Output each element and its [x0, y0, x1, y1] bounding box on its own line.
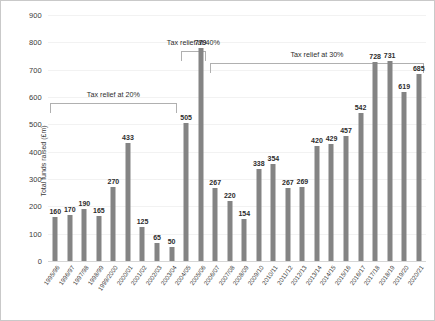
y-axis-tick-label: 100 [29, 229, 42, 238]
bar-group: 7282017/18 [368, 15, 383, 261]
bar-value-label: 125 [137, 218, 149, 225]
bar[interactable] [416, 74, 421, 261]
bar[interactable] [314, 146, 319, 261]
bar[interactable] [329, 144, 334, 261]
bar-value-label: 170 [64, 206, 76, 213]
bar-group: 502003/04 [164, 15, 179, 261]
bar[interactable] [140, 227, 145, 261]
bar-value-label: 50 [168, 238, 176, 245]
y-axis-tick-label: 500 [29, 120, 42, 129]
y-axis-tick-label: 200 [29, 202, 42, 211]
bar-value-label: 354 [267, 155, 279, 162]
bar-value-label: 420 [311, 137, 323, 144]
bar-value-label: 338 [253, 160, 265, 167]
bar[interactable] [300, 187, 305, 261]
bar[interactable] [169, 247, 174, 261]
bar-value-label: 685 [413, 65, 425, 72]
bar-group: 2672011/12 [281, 15, 296, 261]
bar-group: 6852020/21 [411, 15, 426, 261]
bar[interactable] [96, 216, 101, 261]
bar-value-label: 457 [340, 127, 352, 134]
bar-group: 652002/03 [150, 15, 165, 261]
bar-group: 2701999/2000 [106, 15, 121, 261]
bar-value-label: 154 [238, 210, 250, 217]
bar-value-label: 542 [355, 104, 367, 111]
bar[interactable] [358, 113, 363, 261]
bar-group: 3382009/10 [252, 15, 267, 261]
bar-series: 1601995/961701996/971901997/981651998/99… [48, 15, 426, 261]
bar-value-label: 65 [153, 234, 161, 241]
bar[interactable] [373, 62, 378, 261]
bar-group: 7312018/19 [382, 15, 397, 261]
bar-value-label: 505 [180, 114, 192, 121]
bar-value-label: 270 [108, 178, 120, 185]
y-axis-tick-label: 800 [29, 38, 42, 47]
bar-group: 7792005/06 [193, 15, 208, 261]
bar-group: 1542008/09 [237, 15, 252, 261]
bar-group: 2202007/08 [222, 15, 237, 261]
bar-group: 1601995/96 [48, 15, 63, 261]
y-axis-title: Total funds raised (£m) [40, 125, 47, 196]
bar[interactable] [256, 169, 261, 261]
bar[interactable] [125, 143, 130, 261]
bar-value-label: 429 [326, 135, 338, 142]
bar[interactable] [53, 217, 58, 261]
bar[interactable] [285, 188, 290, 261]
bar-group: 1901997/98 [77, 15, 92, 261]
bar-group: 5422016/17 [353, 15, 368, 261]
bar[interactable] [271, 164, 276, 261]
bar[interactable] [344, 136, 349, 261]
bar[interactable] [227, 201, 232, 261]
bar[interactable] [184, 123, 189, 261]
bar-value-label: 779 [195, 39, 207, 46]
bar[interactable] [111, 187, 116, 261]
y-axis-tick-label: 300 [29, 175, 42, 184]
bar-group: 4572015/16 [339, 15, 354, 261]
bar-value-label: 165 [93, 207, 105, 214]
bar-group: 2672006/07 [208, 15, 223, 261]
bar-value-label: 269 [297, 178, 309, 185]
y-axis-tick-label: 700 [29, 65, 42, 74]
y-axis-tick-label: 600 [29, 93, 42, 102]
bar-value-label: 267 [282, 179, 294, 186]
y-axis-tick-label: 900 [29, 11, 42, 20]
bar-group: 1252001/02 [135, 15, 150, 261]
gridline [48, 261, 426, 262]
bar-group: 1701996/97 [63, 15, 78, 261]
bar-group: 1651998/99 [92, 15, 107, 261]
bar-value-label: 433 [122, 134, 134, 141]
bar[interactable] [155, 243, 160, 261]
bar-value-label: 160 [49, 208, 61, 215]
bar-value-label: 267 [209, 179, 221, 186]
bar[interactable] [242, 219, 247, 261]
plot-area: Tax relief at 20%Tax relief at 40%Tax re… [48, 15, 426, 261]
bar-group: 4332000/01 [121, 15, 136, 261]
bar-value-label: 190 [78, 200, 90, 207]
bar-value-label: 619 [398, 83, 410, 90]
bar-group: 6192019/20 [397, 15, 412, 261]
chart-figure: Total funds raised (£m) Tax relief at 20… [0, 0, 435, 321]
bar[interactable] [387, 61, 392, 261]
bar-group: 2692012/13 [295, 15, 310, 261]
bar-group: 4202013/14 [310, 15, 325, 261]
bar-value-label: 220 [224, 192, 236, 199]
bar-value-label: 731 [384, 52, 396, 59]
bar-group: 4292014/15 [324, 15, 339, 261]
bar-value-label: 728 [369, 53, 381, 60]
bar[interactable] [198, 48, 203, 261]
bar[interactable] [82, 209, 87, 261]
bar-group: 3542010/11 [266, 15, 281, 261]
y-axis-tick-label: 400 [29, 147, 42, 156]
y-axis-tick-label: 0 [38, 257, 42, 266]
bar[interactable] [213, 188, 218, 261]
bar[interactable] [67, 215, 72, 261]
bar-group: 5052004/05 [179, 15, 194, 261]
bar[interactable] [402, 92, 407, 261]
